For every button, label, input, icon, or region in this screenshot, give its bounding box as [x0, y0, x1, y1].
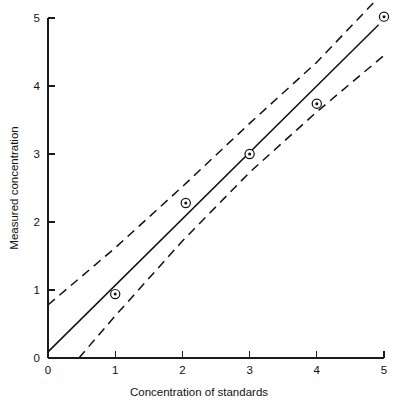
x-tick-label-0: 0 — [45, 364, 51, 376]
x-axis-title: Concentration of standards — [130, 386, 268, 398]
data-point-marker — [245, 149, 254, 158]
x-tick-label-3: 3 — [246, 364, 252, 376]
chart-background — [0, 0, 398, 410]
marker-center-dot-icon — [248, 153, 251, 156]
y-tick-label-3: 3 — [34, 148, 40, 160]
marker-center-dot-icon — [114, 293, 117, 296]
chart-svg: 5 4 3 2 1 0 0 1 2 3 4 5 Concentration of… — [0, 0, 398, 410]
x-tick-label-5: 5 — [381, 364, 387, 376]
y-tick-label-2: 2 — [34, 216, 40, 228]
marker-center-dot-icon — [184, 201, 187, 204]
y-tick-label-0: 0 — [34, 352, 40, 364]
calibration-curve-chart: 5 4 3 2 1 0 0 1 2 3 4 5 Concentration of… — [0, 0, 398, 410]
x-tick-label-4: 4 — [314, 364, 321, 376]
x-tick-label-1: 1 — [112, 364, 118, 376]
data-point-marker — [312, 99, 321, 108]
y-tick-label-5: 5 — [34, 12, 40, 24]
marker-center-dot-icon — [315, 102, 318, 105]
data-point-marker — [181, 198, 190, 207]
x-tick-label-2: 2 — [179, 364, 185, 376]
y-axis-title: Measured concentration — [8, 126, 20, 249]
marker-center-dot-icon — [383, 15, 386, 18]
data-point-marker — [111, 289, 120, 298]
y-tick-label-1: 1 — [34, 284, 40, 296]
y-tick-label-4: 4 — [34, 80, 41, 92]
data-point-marker — [379, 12, 388, 21]
